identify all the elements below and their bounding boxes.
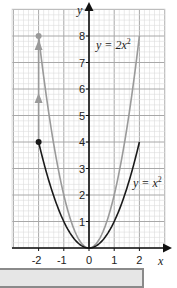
y-tick-label: 4 xyxy=(79,136,85,148)
caption-box xyxy=(0,268,144,288)
axes: y x xyxy=(12,2,172,268)
curve-label-x2-exp: 2 xyxy=(158,175,162,184)
x-tick-label: -2 xyxy=(32,254,42,266)
y-tick-label: 3 xyxy=(79,163,85,175)
x-tick-label: 1 xyxy=(111,254,117,266)
y-tick-label: 1 xyxy=(79,216,85,228)
y-tick-label: 2 xyxy=(79,189,85,201)
curve-label-x2: y = x2 xyxy=(132,175,162,190)
x-tick-label: -1 xyxy=(57,254,67,266)
x-axis-name: x xyxy=(157,254,164,268)
y-axis-name: y xyxy=(76,3,83,17)
y-tick-label: 7 xyxy=(79,57,85,69)
tick-labels: -2-101212345678 xyxy=(32,30,143,266)
curve-label-2x2-exp: 2 xyxy=(127,37,131,46)
y-tick-label: 5 xyxy=(79,110,85,122)
curve-label-x2-text: y = x xyxy=(132,176,158,190)
curves xyxy=(35,33,140,248)
x-tick-label: 0 xyxy=(86,254,92,266)
x-tick-label: 2 xyxy=(136,254,142,266)
y-axis-arrow-icon xyxy=(85,2,94,11)
y-tick-label: 8 xyxy=(79,30,85,42)
x-axis-arrow-icon xyxy=(163,244,172,253)
data-point xyxy=(36,139,42,145)
data-point xyxy=(36,33,42,39)
curve-label-2x2: y = 2x2 xyxy=(95,37,131,52)
curve-label-2x2-text: y = 2x xyxy=(95,38,127,52)
y-tick-label: 6 xyxy=(79,83,85,95)
